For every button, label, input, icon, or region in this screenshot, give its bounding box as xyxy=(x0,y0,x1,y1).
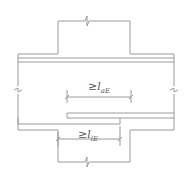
label-sub: aE xyxy=(101,87,110,95)
anchorage-length-label: ≥laE xyxy=(88,80,110,95)
label-prefix: ≥ xyxy=(88,80,97,93)
top-rebar xyxy=(18,58,174,62)
top-break-mark xyxy=(85,16,89,26)
label-prefix: ≥ xyxy=(78,128,87,141)
label-sub: lE xyxy=(91,135,98,143)
top-column-outline xyxy=(58,21,130,54)
lap-length-label: ≥llE xyxy=(78,128,98,143)
left-break-mark xyxy=(14,88,22,92)
bottom-rebar-right xyxy=(67,113,174,118)
right-break-mark xyxy=(170,88,178,92)
bottom-break-mark xyxy=(85,157,89,167)
bottom-rebar-left xyxy=(18,118,120,124)
